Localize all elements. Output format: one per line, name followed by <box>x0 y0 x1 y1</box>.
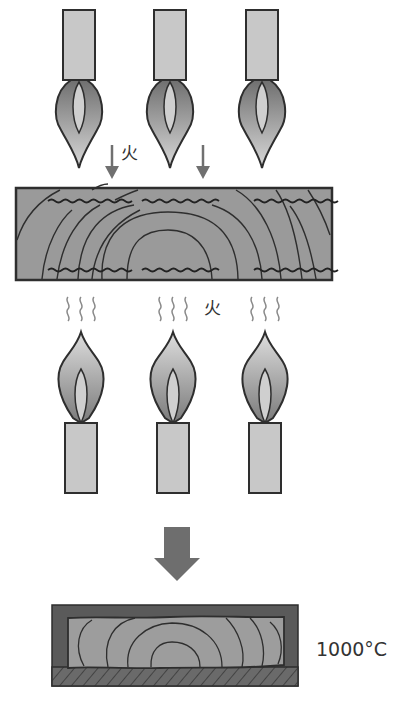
top-burner-2 <box>147 10 193 168</box>
bottom-candle-3 <box>242 332 287 493</box>
temperature-label: 1000°C <box>316 638 387 660</box>
char-base-hatched <box>52 667 298 686</box>
heat-arrow-down-icon <box>196 145 210 179</box>
heat-wave-icon <box>159 297 187 321</box>
heat-wave-icon <box>67 297 95 321</box>
top-burner-3 <box>239 10 285 168</box>
candle-body <box>157 423 189 493</box>
transition-arrow-down-icon <box>154 527 200 581</box>
burner-tube <box>246 10 278 80</box>
wood-block <box>16 184 338 280</box>
carbonized-wood <box>52 605 298 686</box>
bottom-candle-1 <box>58 332 103 493</box>
top-burner-1 <box>56 10 102 168</box>
heat-wave-icon <box>251 297 279 321</box>
candle-body <box>249 423 281 493</box>
burner-tube <box>154 10 186 80</box>
fire-label-bottom: 火 <box>204 298 221 318</box>
candle-body <box>65 423 97 493</box>
heat-arrow-down-icon <box>105 145 119 179</box>
fire-label-top: 火 <box>121 143 138 163</box>
bottom-candle-2 <box>150 332 195 493</box>
wood-carbonization-diagram: 火 <box>0 0 396 707</box>
burner-tube <box>63 10 95 80</box>
